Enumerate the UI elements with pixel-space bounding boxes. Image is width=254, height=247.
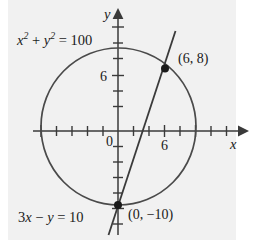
x-axis-arrowhead	[238, 126, 249, 137]
point-label-upper: (6, 8)	[178, 52, 208, 66]
line-eq-equals: = 10	[54, 209, 84, 225]
y-axis-arrowhead	[113, 8, 124, 19]
line-equation-label: 3x − y = 10	[18, 210, 84, 225]
x-axis-label: x	[230, 137, 236, 152]
figure-container: x2 + y2 = 100 3x − y = 10 (6, 8) (0, −10…	[0, 0, 254, 247]
line-eq-minus: −	[32, 209, 47, 225]
x-axis-tick-label-6: 6	[161, 139, 168, 153]
circle-eq-plus: +	[28, 32, 43, 48]
circle-eq-equals: = 100	[55, 32, 92, 48]
origin-tick-label: 0	[106, 135, 113, 149]
circle-equation-label: x2 + y2 = 100	[17, 31, 92, 47]
y-axis-label: y	[104, 7, 110, 22]
point-marker-upper	[161, 65, 169, 73]
point-marker-lower	[114, 201, 122, 209]
point-label-lower: (0, −10)	[128, 208, 173, 222]
y-axis-tick-label-6: 6	[100, 70, 107, 84]
